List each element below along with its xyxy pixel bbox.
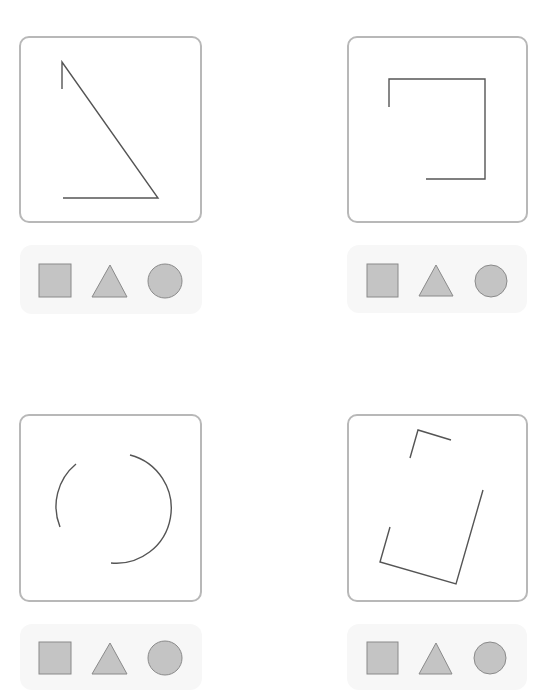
circle-option-icon[interactable] [475,265,507,297]
circle-option-icon[interactable] [148,641,182,675]
square-option-icon[interactable] [367,264,398,297]
puzzle-panel-1 [19,36,202,223]
triangle-option-icon[interactable] [92,265,127,297]
triangle-option-icon[interactable] [419,643,452,674]
triangle-outline-incomplete-drawing [21,38,204,225]
answer-options-2 [347,245,527,313]
puzzle-panel-4 [347,414,528,602]
square-option-icon[interactable] [39,264,71,297]
square-option-icon[interactable] [39,642,71,674]
answer-options-1 [20,245,202,314]
square-outline-incomplete-drawing [349,38,530,225]
circle-option-icon[interactable] [474,642,506,674]
puzzle-panel-2 [347,36,528,223]
square-option-icon[interactable] [367,642,398,674]
rotated-rectangle-outline-incomplete-drawing [349,416,530,604]
circle-outline-incomplete-drawing [21,416,204,604]
clipped-instruction-text [0,0,170,6]
answer-options-4 [347,624,527,690]
circle-option-icon[interactable] [148,264,182,298]
puzzle-panel-3 [19,414,202,602]
triangle-option-icon[interactable] [92,643,127,674]
answer-options-3 [20,624,202,690]
triangle-option-icon[interactable] [419,265,453,296]
